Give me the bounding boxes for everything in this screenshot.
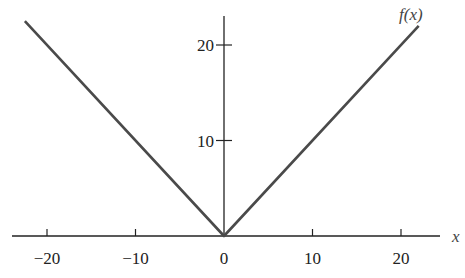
x-tick-label: −10 [122, 249, 149, 268]
x-axis-label: x [451, 227, 460, 246]
y-ticks: 1020 [197, 36, 232, 151]
x-tick-label: 20 [393, 249, 410, 268]
x-tick-label: 10 [304, 249, 321, 268]
series-line [25, 21, 419, 236]
x-tick-label: −20 [34, 249, 61, 268]
abs-value-chart: −20−1001020 1020 x f(x) [0, 0, 465, 278]
x-tick-label: 0 [220, 249, 229, 268]
y-tick-label: 20 [197, 36, 214, 55]
y-tick-label: 10 [197, 132, 214, 151]
function-label: f(x) [399, 5, 423, 24]
